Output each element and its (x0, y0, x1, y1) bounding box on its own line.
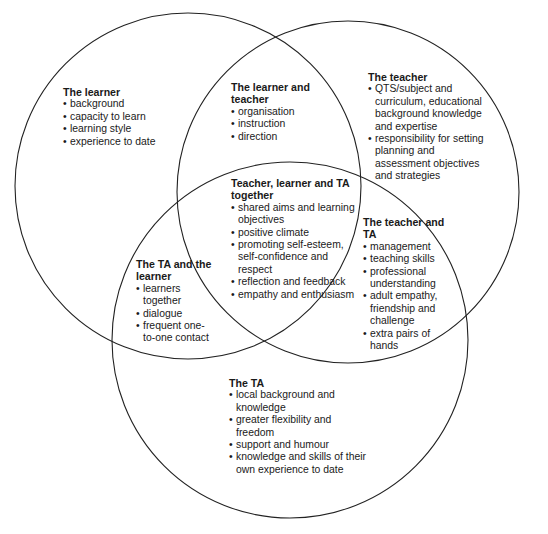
region-list: background capacity to learn learning st… (63, 98, 203, 148)
list-item: capacity to learn (63, 111, 203, 123)
list-item: promoting self-esteem, self-confidence a… (231, 239, 359, 276)
list-item: support and humour (229, 439, 369, 451)
list-item: background (63, 98, 203, 110)
region-list: local background and knowledge greater f… (229, 389, 369, 476)
list-item: professional understanding (363, 266, 445, 291)
region-title: The TA and the learner (136, 258, 216, 283)
region-all-three: Teacher, learner and TA together shared … (231, 177, 359, 301)
list-item: experience to date (63, 136, 203, 148)
list-item: learning style (63, 123, 203, 135)
list-item: responsibility for setting planning and … (368, 133, 486, 183)
region-title: The learner (63, 86, 203, 98)
region-list: organisation instruction direction (231, 106, 323, 143)
list-item: shared aims and learning objectives (231, 202, 359, 227)
region-teacher-ta: The teacher and TA management teaching s… (363, 216, 445, 352)
region-title: Teacher, learner and TA together (231, 177, 359, 202)
list-item: frequent one-to-one contact (136, 320, 216, 345)
list-item: local background and knowledge (229, 389, 369, 414)
region-title: The TA (229, 377, 369, 389)
region-title: The teacher and TA (363, 216, 445, 241)
region-list: QTS/subject and curriculum, educational … (368, 83, 486, 182)
list-item: management (363, 241, 445, 253)
list-item: organisation (231, 106, 323, 118)
list-item: learners together (136, 283, 216, 308)
region-list: management teaching skills professional … (363, 241, 445, 353)
region-teacher: The teacher QTS/subject and curriculum, … (368, 71, 486, 183)
list-item: greater flexibility and freedom (229, 414, 369, 439)
region-learner-teacher: The learner and teacher organisation ins… (231, 81, 323, 143)
list-item: adult empathy, friendship and challenge (363, 290, 445, 327)
list-item: reflection and feedback (231, 276, 359, 288)
region-list: shared aims and learning objectives posi… (231, 202, 359, 301)
list-item: empathy and enthusiasm (231, 289, 359, 301)
list-item: extra pairs of hands (363, 328, 445, 353)
region-learner: The learner background capacity to learn… (63, 86, 203, 148)
list-item: teaching skills (363, 253, 445, 265)
list-item: instruction (231, 118, 323, 130)
region-ta: The TA local background and knowledge gr… (229, 377, 369, 476)
list-item: knowledge and skills of their own experi… (229, 451, 369, 476)
list-item: dialogue (136, 308, 216, 320)
list-item: positive climate (231, 227, 359, 239)
list-item: direction (231, 131, 323, 143)
region-list: learners together dialogue frequent one-… (136, 283, 216, 345)
region-title: The learner and teacher (231, 81, 323, 106)
region-title: The teacher (368, 71, 486, 83)
region-ta-learner: The TA and the learner learners together… (136, 258, 216, 345)
list-item: QTS/subject and curriculum, educational … (368, 83, 486, 133)
